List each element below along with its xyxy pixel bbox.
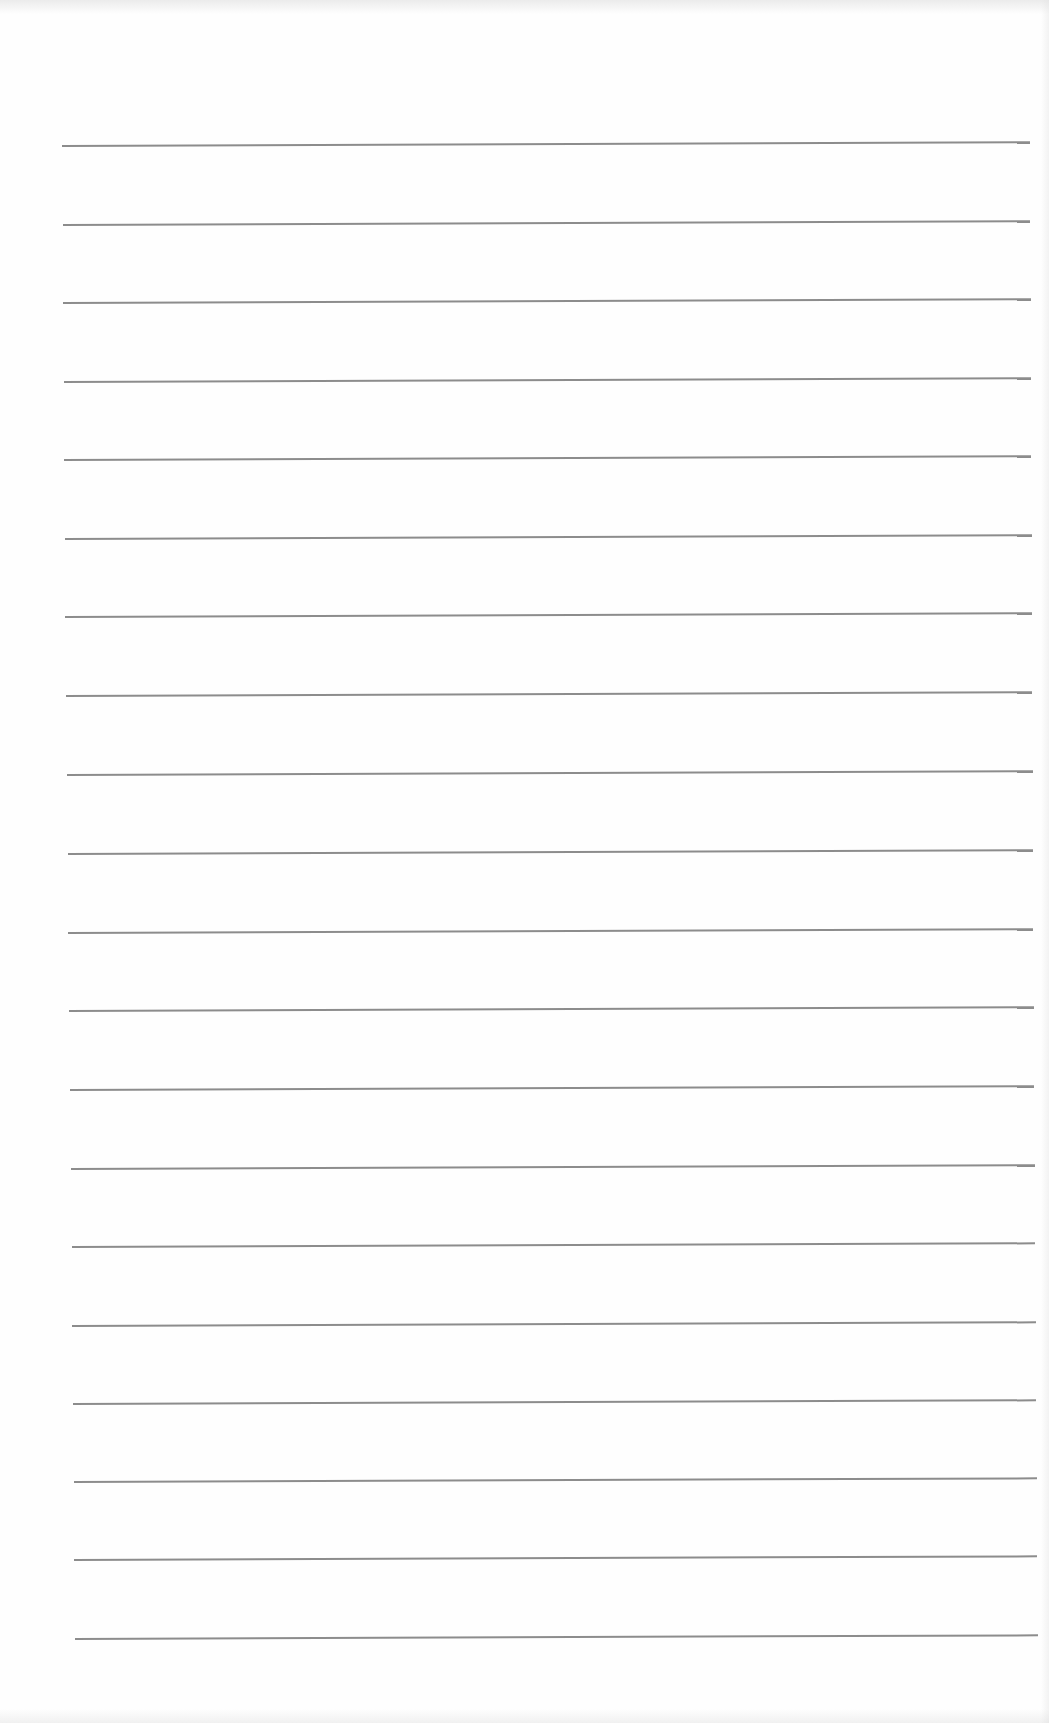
- ruled-line: [63, 298, 1031, 304]
- lined-paper-page: [0, 0, 1049, 1723]
- ruled-line: [65, 534, 1032, 540]
- ruled-line: [74, 1477, 1037, 1483]
- ruled-line: [68, 849, 1033, 855]
- ruled-line: [62, 141, 1030, 147]
- ruled-line: [64, 455, 1031, 461]
- ruled-line: [63, 220, 1030, 226]
- ruled-line: [66, 691, 1032, 697]
- ruled-line: [69, 1006, 1034, 1012]
- scan-artifact-bottom: [0, 1709, 1049, 1723]
- ruled-line: [67, 770, 1033, 776]
- ruled-line: [65, 612, 1032, 618]
- ruled-line: [75, 1634, 1038, 1640]
- ruled-line: [68, 928, 1033, 934]
- ruled-line: [73, 1399, 1036, 1405]
- ruled-line: [74, 1555, 1037, 1561]
- ruled-line: [71, 1164, 1035, 1170]
- ruled-line: [72, 1242, 1035, 1248]
- ruled-line: [70, 1085, 1034, 1091]
- ruled-line: [64, 377, 1031, 383]
- ruled-line: [72, 1321, 1036, 1327]
- scan-artifact-right-edge: [1041, 0, 1049, 1723]
- scan-artifact-top: [0, 0, 1049, 14]
